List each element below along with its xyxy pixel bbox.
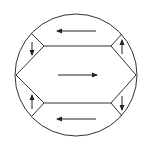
flow-diagram xyxy=(0,0,146,148)
chord-top-left xyxy=(32,34,44,46)
chord-top-right xyxy=(111,34,122,46)
chord-bottom-right xyxy=(111,103,122,116)
chord-bottom-left xyxy=(32,103,44,116)
